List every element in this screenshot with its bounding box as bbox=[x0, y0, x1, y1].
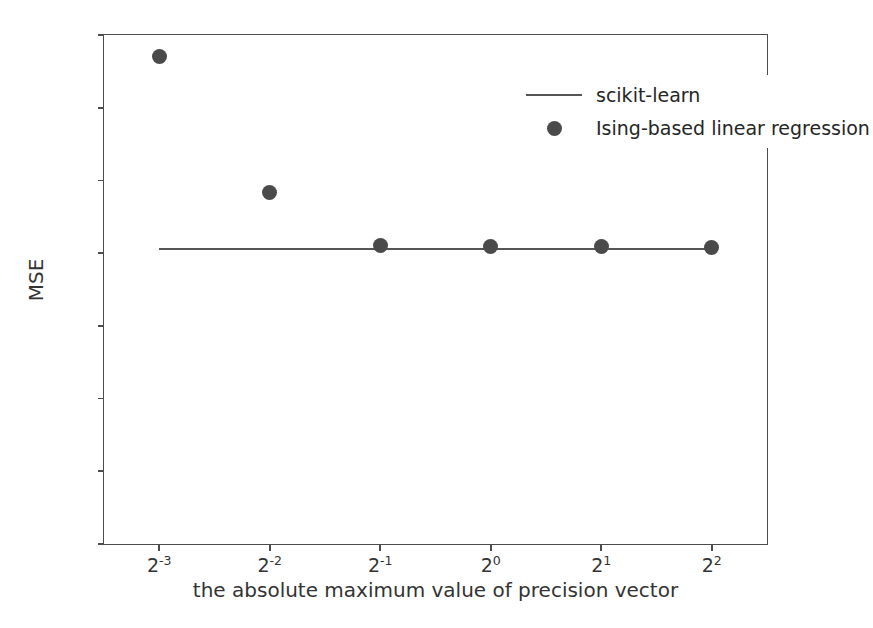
x-axis-tick-label: 22 bbox=[672, 554, 752, 576]
data-point bbox=[262, 185, 277, 200]
x-axis-tick-mark bbox=[158, 544, 160, 551]
x-axis-tick-mark bbox=[490, 544, 492, 551]
y-axis-tick-mark bbox=[98, 34, 105, 36]
x-axis-tick-mark bbox=[379, 544, 381, 551]
y-axis-tick-mark bbox=[98, 543, 105, 545]
legend-label: scikit-learn bbox=[596, 84, 700, 106]
x-axis-tick-label: 21 bbox=[561, 554, 641, 576]
legend-label: Ising-based linear regression bbox=[596, 117, 870, 139]
data-point bbox=[483, 239, 498, 254]
plot-axes-frame: 0.00.10.20.30.40.50.60.72-32-22-1202122 … bbox=[103, 34, 768, 545]
data-point bbox=[373, 238, 388, 253]
y-axis-label: MSE bbox=[24, 220, 48, 340]
y-axis-tick-mark bbox=[98, 107, 105, 109]
chart-legend: scikit-learn Ising-based linear regressi… bbox=[518, 75, 873, 148]
x-axis-tick-label: 20 bbox=[451, 554, 531, 576]
x-axis-tick-label: 2-2 bbox=[230, 554, 310, 576]
y-axis-tick-mark bbox=[98, 398, 105, 400]
legend-entry-scikit-learn[interactable]: scikit-learn bbox=[524, 83, 870, 107]
series-line-scikit-learn bbox=[159, 248, 712, 250]
legend-marker-swatch bbox=[524, 121, 584, 136]
y-axis-tick-mark bbox=[98, 252, 105, 254]
data-point bbox=[152, 49, 167, 64]
y-axis-tick-mark bbox=[98, 180, 105, 182]
x-axis-tick-mark bbox=[711, 544, 713, 551]
x-axis-label: the absolute maximum value of precision … bbox=[103, 578, 768, 602]
legend-line-swatch bbox=[524, 94, 584, 96]
y-axis-tick-mark bbox=[98, 325, 105, 327]
y-axis-tick-mark bbox=[98, 470, 105, 472]
x-axis-tick-label: 2-3 bbox=[119, 554, 199, 576]
legend-entry-ising-based-linear-regression[interactable]: Ising-based linear regression bbox=[524, 116, 870, 140]
x-axis-tick-mark bbox=[269, 544, 271, 551]
x-axis-tick-label: 2-1 bbox=[340, 554, 420, 576]
x-axis-tick-mark bbox=[600, 544, 602, 551]
data-point bbox=[594, 239, 609, 254]
data-point bbox=[704, 240, 719, 255]
